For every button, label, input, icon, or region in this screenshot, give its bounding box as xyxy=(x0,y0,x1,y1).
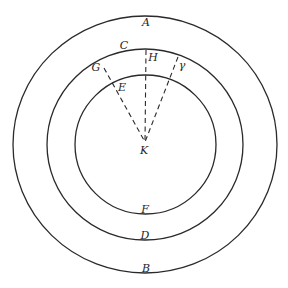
label-B: B xyxy=(141,262,150,275)
label-K: K xyxy=(139,144,149,157)
ray-K-to-H xyxy=(145,50,146,142)
label-C: C xyxy=(120,39,129,52)
label-F: F xyxy=(140,203,149,216)
label-D: D xyxy=(140,229,150,242)
ray-K-to-G xyxy=(104,68,145,142)
label-A: A xyxy=(141,16,150,29)
label-gamma: γ xyxy=(179,59,186,72)
concentric-circles-diagram: A B C D F G E H γ K xyxy=(0,0,288,288)
label-H: H xyxy=(147,51,158,64)
label-G: G xyxy=(92,61,101,74)
label-E: E xyxy=(117,81,126,94)
ray-K-to-gamma xyxy=(145,57,178,142)
